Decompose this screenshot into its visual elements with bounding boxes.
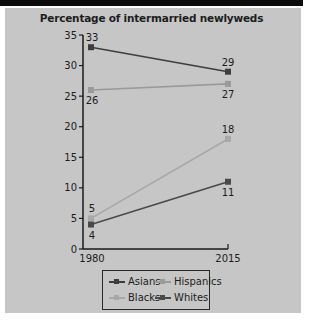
x-tick-label: 1980 [79, 253, 104, 264]
y-tick-label: 20 [64, 121, 77, 132]
legend-label: Whites [174, 292, 208, 303]
line-swatch-icon [155, 278, 171, 286]
data-label: 33 [86, 32, 99, 43]
y-tick-label: 10 [64, 182, 77, 193]
series-line-asians [91, 47, 228, 71]
data-point-marker [88, 222, 94, 228]
data-point-marker [225, 69, 231, 75]
data-label: 27 [222, 89, 235, 100]
data-label: 4 [89, 230, 95, 241]
data-point-marker [225, 136, 231, 142]
x-tick-label: 2015 [215, 253, 240, 264]
line-swatch-icon [155, 294, 171, 302]
data-label: 26 [86, 95, 99, 106]
y-tick-label: 35 [64, 30, 77, 41]
data-label: 18 [222, 124, 235, 135]
data-label: 5 [89, 203, 95, 214]
data-point-marker [88, 87, 94, 93]
y-tick-label: 25 [64, 91, 77, 102]
legend-item-blacks: Blacks [109, 292, 160, 303]
data-point-marker [88, 215, 94, 221]
y-tick-label: 5 [71, 213, 77, 224]
data-label: 11 [222, 187, 235, 198]
series-line-hispanics [91, 84, 228, 90]
data-point-marker [225, 179, 231, 185]
legend-item-hispanics: Hispanics [155, 276, 222, 287]
legend-label: Hispanics [174, 276, 222, 287]
legend-item-asians: Asians [109, 276, 161, 287]
series-line-blacks [91, 139, 228, 218]
y-tick-label: 30 [64, 60, 77, 71]
line-swatch-icon [109, 294, 125, 302]
y-tick-label: 0 [71, 244, 77, 255]
legend: Asians Hispanics Blacks Whites [102, 270, 210, 310]
data-label: 29 [222, 57, 235, 68]
data-point-marker [88, 44, 94, 50]
line-swatch-icon [109, 278, 125, 286]
legend-item-whites: Whites [155, 292, 208, 303]
series-line-whites [91, 182, 228, 225]
y-tick-label: 15 [64, 152, 77, 163]
data-point-marker [225, 81, 231, 87]
